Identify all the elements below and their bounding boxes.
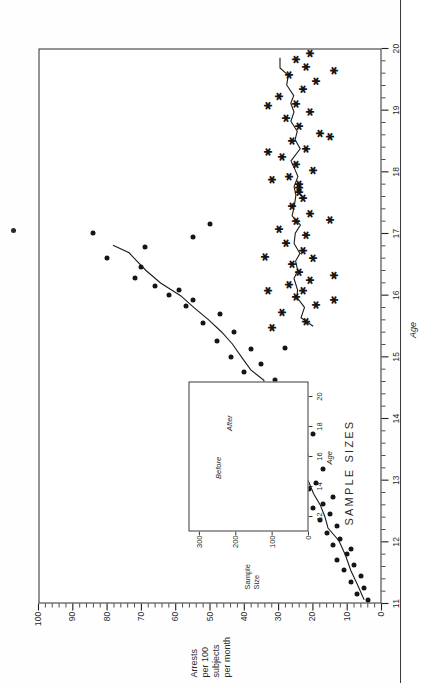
data-point-dot [365,597,370,602]
data-point-dot [183,303,188,308]
x-tick-label: 12 [390,533,400,549]
inset-x-tick-label: 14 [314,479,323,493]
data-point-dot [348,579,353,584]
data-point-dot [104,255,109,260]
scanned-page: ✱✱✱✱✱✱✱✱✱✱✱✱✱✱✱✱✱✱✱✱✱✱✱✱✱✱✱✱✱✱✱✱✱✱✱✱✱✱✱✱… [0,0,426,683]
data-point-dot [320,466,325,471]
inset-x-tick-label: 20 [314,389,323,403]
data-point-dot [166,292,171,297]
data-point-dot [231,329,236,334]
data-point-dot [214,338,219,343]
x-tick-label: 14 [390,410,400,426]
data-point-dot [324,530,329,535]
data-point-dot [330,494,335,499]
data-point-dot [152,283,157,288]
x-tick-label: 15 [390,348,400,364]
inset-series-label-after: After [224,415,233,431]
data-point-dot [282,345,287,350]
y-tick-label: 70 [135,611,145,639]
x-tick-label: 20 [390,40,400,56]
plot-graphics [0,0,426,683]
data-point-dot [334,523,339,528]
inset-y-tick-label: 0 [303,535,312,559]
y-axis-title-line: per month [221,636,232,677]
data-point-dot [341,567,346,572]
data-point-dot [217,311,222,316]
inset-y-axis-title-line: Size [251,564,260,589]
chart-stage: ✱✱✱✱✱✱✱✱✱✱✱✱✱✱✱✱✱✱✱✱✱✱✱✱✱✱✱✱✱✱✱✱✱✱✱✱✱✱✱✱… [0,0,426,683]
data-point-dot [190,297,195,302]
data-point-dot [330,542,335,547]
y-tick-label: 10 [341,611,351,639]
inset-x-tick-label: 12 [314,509,323,523]
y-tick-label: 0 [375,611,385,639]
inset-y-tick-label: 200 [230,535,239,559]
y-axis-title-line: per 100 [199,636,210,677]
data-point-dot [176,287,181,292]
inset-y-tick-label: 100 [267,535,276,559]
x-axis-title: Age [407,321,417,337]
data-point-dot [132,275,137,280]
data-point-dot [351,562,356,567]
data-point-dot [228,354,233,359]
y-tick-label: 50 [204,611,214,639]
y-tick-label: 30 [272,611,282,639]
y-tick-label: 80 [101,611,111,639]
x-tick-label: 18 [390,163,400,179]
data-point-dot [207,221,212,226]
data-point-dot [258,361,263,366]
data-point-dot [354,591,359,596]
data-point-dot [344,551,349,556]
y-tick-label: 100 [32,611,42,639]
y-axis-title: Arrestsper 100subjectsper month [188,636,232,677]
inset-x-tick-label: 18 [314,419,323,433]
data-point-dot [348,546,353,551]
y-tick-label: 60 [169,611,179,639]
data-point-dot [248,346,253,351]
inset-y-tick-label: 300 [194,535,203,559]
data-point-dot [90,231,95,236]
data-point-dot [200,320,205,325]
x-tick-label: 11 [390,595,400,611]
data-point-dot [320,501,325,506]
inset-x-tick-label: 16 [314,449,323,463]
x-tick-label: 19 [390,102,400,118]
data-point-dot [190,234,195,239]
data-point-dot [361,585,366,590]
x-tick-label: 13 [390,472,400,488]
y-tick-label: 20 [306,611,316,639]
y-axis-title-line: Arrests [188,636,199,677]
y-tick-label: 40 [238,611,248,639]
data-point-dot [142,244,147,249]
inset-plot-frame [188,381,308,531]
data-point-dot [138,264,143,269]
data-point-dot [334,557,339,562]
inset-series-label-before: Before [213,456,222,478]
x-tick-label: 17 [390,225,400,241]
data-point-dot [327,511,332,516]
y-axis-title-line: subjects [210,636,221,677]
inset-y-axis-title-line: Sample [242,564,251,589]
data-point-dot [337,536,342,541]
data-point-dot [358,573,363,578]
data-point-dot [241,369,246,374]
y-tick-label: 90 [66,611,76,639]
inset-x-axis-title: Age [324,451,333,464]
x-tick-label: 16 [390,287,400,303]
inset-title: SAMPLE SIZES [342,419,354,525]
inset-y-axis-title: SampleSize [242,564,260,589]
